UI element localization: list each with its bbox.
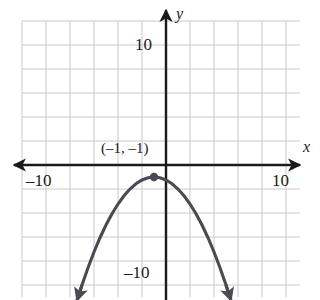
y-axis-tick-label-10: 10 [135, 36, 152, 53]
x-axis-tick-label-negative-10: –10 [26, 172, 52, 189]
axis-lines [14, 10, 300, 300]
x-axis-tick-label-10: 10 [272, 172, 289, 189]
parabola-right-arrow [226, 285, 231, 300]
y-axis-name-label: y [176, 6, 183, 22]
x-axis-name-label: x [303, 139, 310, 155]
parabola-curve [77, 177, 231, 300]
vertex-point-marker [150, 173, 158, 181]
grid-lines [22, 21, 300, 297]
vertex-coordinate-label: (–1, –1) [101, 141, 149, 156]
parabola-left-arrow [77, 285, 82, 300]
coordinate-plane-svg [0, 0, 320, 300]
y-axis-tick-label-negative-10: –10 [124, 264, 150, 281]
graph-figure: 10 –10 –10 10 x y (–1, –1) [0, 0, 320, 300]
